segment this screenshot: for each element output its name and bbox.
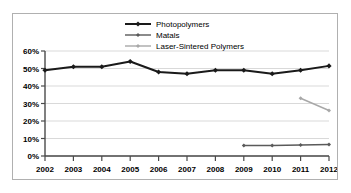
x-axis-tick-label: 2012 bbox=[320, 165, 337, 174]
y-axis-tick-label: 60% bbox=[23, 47, 39, 56]
legend-item: Photopolymers bbox=[125, 20, 209, 29]
y-axis-tick-label: 40% bbox=[23, 82, 39, 91]
legend-marker-icon bbox=[136, 44, 140, 48]
y-axis-tick-label: 0% bbox=[27, 152, 39, 161]
x-axis-tick-label: 2008 bbox=[207, 165, 225, 174]
line-chart: 0%10%20%30%40%50%60% 2002200320042005200… bbox=[13, 14, 337, 179]
y-axis-tick-label: 50% bbox=[23, 65, 39, 74]
legend-item: Matals bbox=[125, 31, 180, 40]
x-axis-tick-label: 2006 bbox=[150, 165, 168, 174]
x-axis-tick-label: 2003 bbox=[65, 165, 83, 174]
x-axis-tick-label: 2007 bbox=[178, 165, 196, 174]
x-axis-tick-label: 2005 bbox=[121, 165, 139, 174]
x-axis-tick-label: 2010 bbox=[263, 165, 281, 174]
chart-legend: PhotopolymersMatalsLaser-Sintered Polyme… bbox=[125, 20, 244, 51]
y-axis-tick-label: 30% bbox=[23, 100, 39, 109]
x-axis-tick-label: 2004 bbox=[93, 165, 111, 174]
y-axis-tick-label: 20% bbox=[23, 117, 39, 126]
legend-label: Laser-Sintered Polymers bbox=[156, 42, 244, 51]
chart-y-axis: 0%10%20%30%40%50%60% bbox=[23, 47, 45, 161]
chart-x-axis: 2002200320042005200620072008200920102011… bbox=[36, 156, 337, 174]
y-axis-tick-label: 10% bbox=[23, 135, 39, 144]
legend-item: Laser-Sintered Polymers bbox=[125, 42, 244, 51]
x-axis-tick-label: 2002 bbox=[36, 165, 54, 174]
x-axis-tick-label: 2011 bbox=[292, 165, 310, 174]
legend-marker-icon bbox=[135, 21, 140, 26]
x-axis-tick-label: 2009 bbox=[235, 165, 253, 174]
legend-label: Matals bbox=[156, 31, 180, 40]
legend-marker-icon bbox=[136, 33, 140, 37]
legend-label: Photopolymers bbox=[156, 20, 209, 29]
chart-frame: 0%10%20%30%40%50%60% 2002200320042005200… bbox=[12, 13, 338, 180]
